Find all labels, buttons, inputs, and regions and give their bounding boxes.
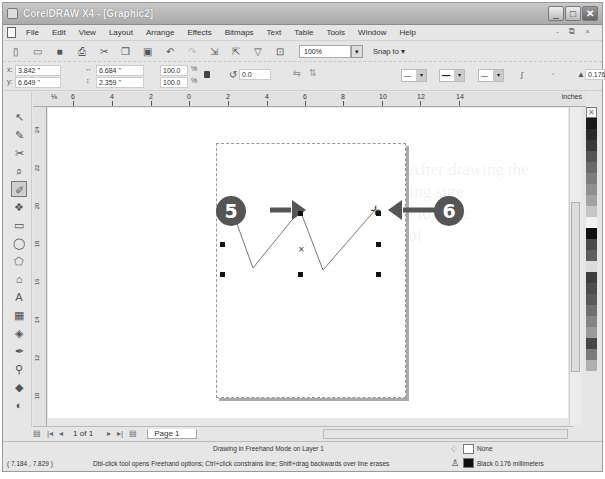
- color-swatch[interactable]: [586, 261, 597, 272]
- x-position-field[interactable]: 3.842 ": [15, 65, 61, 76]
- outline-width-field[interactable]: 0.176: [585, 69, 605, 80]
- menu-arrange[interactable]: Arrange: [146, 28, 174, 37]
- zoom-tool-icon[interactable]: ⌕: [11, 163, 27, 179]
- add-page-button[interactable]: ▤: [129, 429, 137, 438]
- menu-view[interactable]: View: [79, 28, 96, 37]
- document-window-controls[interactable]: - ⧉ ×: [556, 27, 594, 37]
- menu-edit[interactable]: Edit: [52, 28, 66, 37]
- page-options-icon[interactable]: ▤: [33, 429, 41, 438]
- new-icon[interactable]: ▯: [9, 46, 22, 58]
- selection-handle[interactable]: [376, 211, 381, 216]
- menu-tools[interactable]: Tools: [326, 28, 345, 37]
- crop-tool-icon[interactable]: ✂: [11, 145, 27, 161]
- menu-table[interactable]: Table: [294, 28, 313, 37]
- color-swatch[interactable]: [586, 195, 597, 206]
- selection-handle[interactable]: [298, 272, 303, 277]
- lock-ratio-icon[interactable]: [204, 71, 210, 78]
- outline-tool-icon[interactable]: ⚲: [11, 361, 27, 377]
- line-style-selector[interactable]: ━━▾: [439, 69, 465, 82]
- color-swatch[interactable]: [586, 140, 597, 151]
- color-swatch[interactable]: [586, 173, 597, 184]
- export-icon[interactable]: ⇱: [229, 46, 242, 58]
- start-arrowhead-selector[interactable]: —▾: [401, 69, 427, 82]
- color-swatch[interactable]: [586, 250, 597, 261]
- polygon-tool-icon[interactable]: ⬠: [11, 253, 27, 269]
- menu-window[interactable]: Window: [358, 28, 386, 37]
- drawing-canvas[interactable]: s. To finish the curve, After drawing th…: [48, 108, 568, 418]
- color-swatch[interactable]: [586, 228, 597, 239]
- paste-icon[interactable]: ▣: [141, 46, 154, 58]
- rotation-angle-field[interactable]: 0.0: [239, 69, 271, 80]
- color-swatch[interactable]: [586, 305, 597, 316]
- color-swatch[interactable]: [586, 272, 597, 283]
- color-swatch[interactable]: [586, 239, 597, 250]
- menu-text[interactable]: Text: [267, 28, 282, 37]
- open-icon[interactable]: ▭: [31, 46, 44, 58]
- color-swatch[interactable]: [586, 338, 597, 349]
- menu-effects[interactable]: Effects: [187, 28, 211, 37]
- color-swatch[interactable]: [586, 118, 597, 129]
- color-swatch[interactable]: [586, 162, 597, 173]
- vertical-scrollbar[interactable]: [569, 107, 581, 425]
- selection-handle[interactable]: [376, 272, 381, 277]
- no-color-swatch[interactable]: ✕: [586, 107, 597, 118]
- color-swatch[interactable]: [586, 316, 597, 327]
- rectangle-tool-icon[interactable]: ▭: [11, 217, 27, 233]
- color-swatch[interactable]: [586, 151, 597, 162]
- document-icon[interactable]: [7, 27, 16, 38]
- scale-y-field[interactable]: 100.0: [160, 77, 188, 88]
- last-page-button[interactable]: ▸|: [117, 429, 123, 438]
- freehand-tool-icon[interactable]: ✐: [11, 181, 27, 197]
- menu-bitmaps[interactable]: Bitmaps: [225, 28, 254, 37]
- cut-icon[interactable]: ✂: [97, 46, 110, 58]
- first-page-button[interactable]: |◂: [47, 429, 53, 438]
- text-tool-icon[interactable]: A: [11, 289, 27, 305]
- welcome-icon[interactable]: ⊡: [273, 46, 286, 58]
- fill-tool-icon[interactable]: ◆: [11, 379, 27, 395]
- outline-swatch[interactable]: [463, 458, 474, 468]
- selection-handle[interactable]: [220, 272, 225, 277]
- color-swatch[interactable]: [586, 184, 597, 195]
- y-position-field[interactable]: 6.649 ": [15, 77, 61, 88]
- scale-x-field[interactable]: 100.0: [160, 65, 188, 76]
- height-field[interactable]: 2.359 ": [96, 77, 144, 88]
- mirror-horizontal-icon[interactable]: ⇆: [293, 68, 301, 78]
- table-tool-icon[interactable]: ▦: [11, 307, 27, 323]
- shape-tool-icon[interactable]: ✎: [11, 127, 27, 143]
- zoom-level-value[interactable]: 100%: [299, 45, 351, 58]
- print-icon[interactable]: ⎙: [75, 46, 88, 58]
- interactive-fill-tool-icon[interactable]: ◐: [11, 397, 27, 413]
- close-button[interactable]: ✕: [582, 6, 598, 21]
- tab-page-1[interactable]: Page 1: [147, 429, 196, 439]
- vertical-ruler[interactable]: 24 22 20 18 16 14 12 10: [33, 107, 47, 427]
- undo-icon[interactable]: ↶: [163, 46, 176, 58]
- auto-close-icon[interactable]: ◔: [550, 70, 555, 79]
- pick-tool-icon[interactable]: ↖: [11, 109, 27, 125]
- next-page-button[interactable]: ▸: [107, 429, 111, 438]
- eyedropper-tool-icon[interactable]: ✒: [11, 343, 27, 359]
- zoom-level-dropdown[interactable]: 100% ▾: [299, 45, 363, 58]
- redo-icon[interactable]: ↷: [185, 46, 198, 58]
- menu-help[interactable]: Help: [400, 28, 416, 37]
- interactive-blend-tool-icon[interactable]: ◈: [11, 325, 27, 341]
- menu-file[interactable]: File: [26, 28, 39, 37]
- selection-handle[interactable]: [298, 211, 303, 216]
- color-swatch[interactable]: [586, 129, 597, 140]
- chevron-down-icon[interactable]: ▾: [351, 45, 363, 58]
- app-launcher-icon[interactable]: ▽: [251, 46, 264, 58]
- color-swatch[interactable]: [586, 349, 597, 360]
- save-icon[interactable]: ■: [53, 46, 66, 58]
- end-arrowhead-selector[interactable]: —▾: [478, 69, 504, 82]
- selection-handle[interactable]: [220, 242, 225, 247]
- mirror-vertical-icon[interactable]: ⇅: [309, 68, 317, 78]
- copy-icon[interactable]: ❐: [119, 46, 132, 58]
- wrap-text-icon[interactable]: ʃ: [521, 70, 523, 79]
- color-swatch[interactable]: [586, 283, 597, 294]
- snap-to-button[interactable]: Snap to ▾: [373, 47, 405, 56]
- color-swatch[interactable]: [586, 360, 597, 371]
- color-swatch[interactable]: [586, 327, 597, 338]
- maximize-button[interactable]: □: [565, 6, 581, 21]
- ellipse-tool-icon[interactable]: ◯: [11, 235, 27, 251]
- import-icon[interactable]: ⇲: [207, 46, 220, 58]
- horizontal-scrollbar[interactable]: [323, 429, 568, 439]
